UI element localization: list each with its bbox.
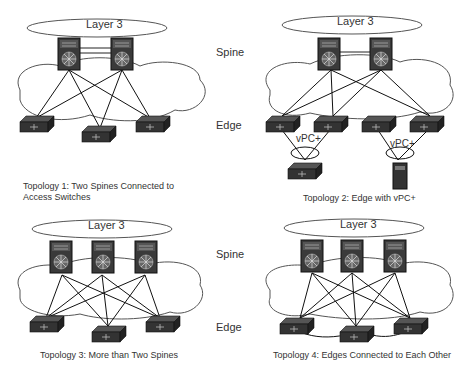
cloud-label-1: Layer 3 xyxy=(86,18,123,30)
cloud-label-3: Layer 3 xyxy=(88,219,125,231)
topology-2 xyxy=(266,16,453,189)
row-label-spine: Spine xyxy=(216,46,244,58)
topology-4 xyxy=(266,219,453,342)
cloud-label-4: Layer 3 xyxy=(340,218,377,230)
row-label-edge: Edge xyxy=(216,119,242,131)
row-label-edge-2: Edge xyxy=(216,321,242,333)
caption-topology-3: Topology 3: More than Two Spines xyxy=(40,350,178,361)
caption-topology-2: Topology 2: Edge with vPC+ xyxy=(303,193,416,204)
cloud-label-2: Layer 3 xyxy=(337,15,374,27)
caption-topology-4: Topology 4: Edges Connected to Each Othe… xyxy=(273,350,451,361)
vpc-label-1: vPC+ xyxy=(296,133,321,144)
vpc-label-2: vPC+ xyxy=(390,138,415,149)
caption-topology-1: Topology 1: Two Spines Connected to Acce… xyxy=(23,181,174,203)
row-label-spine-2: Spine xyxy=(216,248,244,260)
topology-1 xyxy=(18,19,205,142)
topology-3 xyxy=(18,220,203,342)
